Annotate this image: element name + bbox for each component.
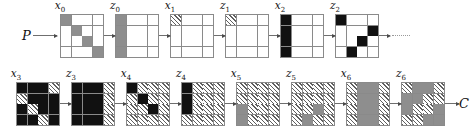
cell-r0-c2 (203, 83, 213, 93)
cell-r0-c1 (358, 83, 368, 93)
arrow-top-4 (324, 35, 335, 36)
cell-r0-c3 (104, 83, 114, 93)
cell-r1-c3 (49, 94, 59, 104)
cell-r0-c3 (368, 15, 378, 25)
cell-r1-c1 (83, 94, 93, 104)
arrow-top-0 (104, 35, 115, 36)
cell-r0-c0 (17, 83, 27, 93)
cell-r1-c0 (17, 94, 27, 104)
cell-r0-c2 (192, 15, 202, 25)
cell-r1-c0 (72, 94, 82, 104)
cell-r1-c3 (324, 94, 334, 104)
grid-x5-cells (236, 82, 280, 126)
grid-z5-label: z5 (286, 68, 296, 82)
cell-r3-c1 (292, 47, 302, 57)
cell-r0-c1 (83, 83, 93, 93)
cell-r3-c1 (72, 47, 82, 57)
cell-r3-c3 (368, 47, 378, 57)
grid-x0-cells (60, 14, 104, 58)
cell-r1-c2 (302, 26, 312, 36)
cell-r2-c3 (324, 104, 334, 114)
grid-x1-label: x1 (165, 0, 175, 14)
cell-r2-c0 (292, 104, 302, 114)
arrow-top-out (379, 35, 390, 36)
cell-r3-c2 (258, 115, 268, 125)
cell-r2-c0 (116, 36, 126, 46)
cell-r1-c0 (61, 26, 71, 36)
cell-r3-c0 (127, 115, 137, 125)
cell-r3-c3 (49, 115, 59, 125)
grid-z3-label: z3 (66, 68, 76, 82)
cell-r0-c1 (292, 15, 302, 25)
cell-r1-c2 (423, 94, 433, 104)
cell-r0-c1 (182, 15, 192, 25)
arrow-top-2 (214, 35, 225, 36)
cell-r0-c1 (347, 15, 357, 25)
cell-r3-c0 (226, 47, 236, 57)
cell-r0-c1 (237, 15, 247, 25)
cell-r1-c2 (357, 26, 367, 36)
cell-r2-c1 (127, 36, 137, 46)
cell-r2-c0 (226, 36, 236, 46)
cell-r2-c3 (203, 36, 213, 46)
bottom-chain-row: C x3z3x4z4x5z5x6z6 (0, 68, 475, 135)
cell-r2-c0 (347, 104, 357, 114)
cell-r2-c2 (302, 36, 312, 46)
cell-r2-c0 (182, 104, 192, 114)
cell-r3-c1 (28, 115, 38, 125)
cell-r1-c2 (203, 94, 213, 104)
cell-r2-c0 (402, 104, 412, 114)
cell-r3-c1 (248, 115, 258, 125)
arrow-bottom-4 (280, 103, 291, 104)
cell-r2-c1 (303, 104, 313, 114)
cell-r1-c0 (237, 94, 247, 104)
grid-z3-cells (71, 82, 115, 126)
cell-r3-c0 (116, 47, 126, 57)
cell-r3-c0 (72, 115, 82, 125)
cell-r1-c3 (379, 94, 389, 104)
cell-r3-c2 (247, 47, 257, 57)
grid-z1-label-subscript: 1 (226, 6, 230, 14)
cell-r1-c0 (182, 94, 192, 104)
cell-r3-c1 (303, 115, 313, 125)
cell-r0-c3 (49, 83, 59, 93)
cell-r3-c0 (402, 115, 412, 125)
cell-r3-c2 (93, 115, 103, 125)
cell-r2-c0 (237, 104, 247, 114)
cell-r2-c3 (93, 36, 103, 46)
cell-r2-c3 (434, 104, 444, 114)
cell-r0-c0 (72, 83, 82, 93)
cell-r2-c0 (336, 36, 346, 46)
cell-r0-c3 (93, 15, 103, 25)
grid-z6-label: z6 (396, 68, 406, 82)
cell-r0-c3 (214, 83, 224, 93)
cell-r0-c0 (182, 83, 192, 93)
cell-r1-c3 (313, 26, 323, 36)
grid-x6-label: x6 (341, 68, 351, 82)
cell-r2-c0 (61, 36, 71, 46)
cell-r3-c2 (137, 47, 147, 57)
cell-r3-c2 (203, 115, 213, 125)
cell-r0-c2 (247, 15, 257, 25)
cell-r3-c2 (368, 115, 378, 125)
cell-r3-c3 (313, 47, 323, 57)
cell-r2-c1 (138, 104, 148, 114)
cell-r3-c2 (357, 47, 367, 57)
cell-r0-c0 (226, 15, 236, 25)
cell-r2-c2 (38, 104, 48, 114)
grid-z6-label-subscript: 6 (402, 74, 406, 82)
cell-r3-c3 (104, 115, 114, 125)
cell-r3-c2 (313, 115, 323, 125)
cell-r2-c1 (182, 36, 192, 46)
cell-r2-c3 (104, 104, 114, 114)
top-chain-row: P x0z0x1z1x2z2 (0, 0, 475, 67)
arrow-bottom-2 (170, 103, 181, 104)
cell-r3-c3 (324, 115, 334, 125)
cell-r1-c3 (434, 94, 444, 104)
cell-r3-c0 (281, 47, 291, 57)
cell-r3-c0 (17, 115, 27, 125)
cell-r0-c1 (72, 15, 82, 25)
cell-r1-c3 (104, 94, 114, 104)
grid-z6-cells (401, 82, 445, 126)
cell-r1-c0 (127, 94, 137, 104)
